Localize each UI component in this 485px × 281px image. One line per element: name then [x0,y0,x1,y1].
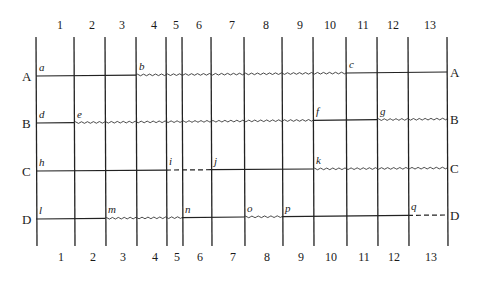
column-label-top: 9 [297,18,303,32]
segment-wavy [313,167,447,170]
point-label-e: e [77,108,82,120]
column-label-bottom: 4 [152,250,158,264]
row-label-left: B [22,116,31,131]
column-line-2 [74,37,75,246]
column-label-bottom: 2 [90,250,96,264]
point-label-g: g [380,105,386,117]
segment-solid [282,215,408,216]
point-label-h: h [39,156,45,168]
column-line-10 [313,37,314,246]
column-label-top: 2 [89,18,95,32]
segment-solid [346,72,447,73]
point-label-a: a [39,61,45,73]
point-label-j: j [212,155,217,167]
column-label-bottom: 6 [197,250,203,264]
segment-wavy [377,118,447,120]
column-label-bottom: 1 [58,250,64,264]
segment-wavy [136,72,346,76]
column-labels-bottom: 12345678910111213 [58,250,437,264]
row-label-left: C [22,164,31,179]
point-label-f: f [316,105,321,117]
column-label-bottom: 3 [120,250,126,264]
column-label-top: 3 [119,18,125,32]
segment-solid [313,120,377,121]
column-line-1 [36,37,37,246]
row-label-right: D [450,208,459,223]
segment-solid [211,169,313,170]
column-line-12 [377,37,378,246]
column-line-7 [211,37,212,246]
column-label-bottom: 13 [425,250,437,264]
column-line-3 [105,37,106,246]
column-label-top: 8 [263,18,269,32]
rows: AAabcBBdefgCChijkDDlmnopq [22,58,460,227]
point-label-k: k [316,154,322,166]
point-label-d: d [39,108,45,120]
segment-wavy [74,120,313,124]
column-label-bottom: 8 [264,250,270,264]
point-label-i: i [169,155,172,167]
point-label-o: o [247,202,253,214]
column-label-bottom: 5 [174,250,180,264]
column-line-5 [166,37,167,246]
column-line-9 [282,37,283,246]
column-label-bottom: 9 [298,250,304,264]
column-label-bottom: 7 [230,250,236,264]
column-label-top: 10 [324,18,336,32]
segment-solid [36,218,105,219]
column-label-top: 7 [229,18,235,32]
point-label-n: n [185,203,191,215]
column-line-8 [244,37,245,246]
point-label-p: p [284,202,291,214]
column-label-top: 13 [424,18,436,32]
point-label-c: c [349,58,354,70]
diagram-canvas: 12345678910111213 12345678910111213 AAab… [0,0,485,281]
column-label-bottom: 11 [358,250,370,264]
column-line-14 [447,37,448,246]
row-label-right: B [450,112,459,127]
row-C: CChijk [22,154,459,179]
column-labels-top: 12345678910111213 [57,18,436,32]
column-label-top: 11 [357,18,369,32]
column-label-top: 6 [196,18,202,32]
row-B: BBdefg [22,105,459,131]
point-label-m: m [108,203,116,215]
segment-solid [36,75,136,76]
column-lines [36,37,448,246]
column-label-bottom: 12 [388,250,400,264]
column-line-13 [408,37,409,246]
column-line-11 [346,37,347,246]
point-label-q: q [411,200,417,212]
column-label-top: 1 [57,18,63,32]
precedence-diagram: 12345678910111213 12345678910111213 AAab… [0,0,485,281]
column-label-top: 4 [151,18,157,32]
point-label-l: l [39,204,42,216]
segment-wavy [244,216,282,218]
row-label-left: A [22,69,32,84]
segment-solid [182,217,244,218]
row-A: AAabc [22,58,460,84]
row-label-right: A [450,65,460,80]
column-label-top: 5 [173,18,179,32]
row-label-right: C [450,161,459,176]
column-label-top: 12 [387,18,399,32]
column-label-bottom: 10 [325,250,337,264]
segment-solid [36,170,166,171]
segment-wavy [105,217,182,219]
row-label-left: D [22,212,31,227]
column-line-6 [182,37,183,246]
row-D: DDlmnopq [22,200,459,227]
point-label-b: b [139,60,145,72]
column-line-4 [136,37,137,246]
